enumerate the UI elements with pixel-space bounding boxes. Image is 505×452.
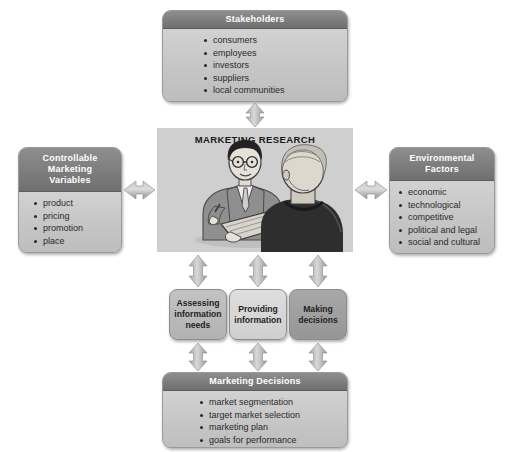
arrow-center-providing <box>249 255 267 287</box>
arrow-decisions-marketing-decisions <box>309 343 327 371</box>
arrow-assessing-marketing-decisions <box>189 343 207 371</box>
diagram-canvas: Stakeholders consumers employees investo… <box>0 0 505 452</box>
arrow-layer <box>0 0 505 452</box>
arrow-providing-marketing-decisions <box>249 343 267 371</box>
arrow-center-controllable <box>124 181 155 199</box>
arrow-center-decisions <box>309 255 327 287</box>
arrow-center-stakeholders <box>246 103 264 127</box>
arrow-center-assessing <box>189 255 207 287</box>
arrow-center-environmental <box>355 181 387 199</box>
